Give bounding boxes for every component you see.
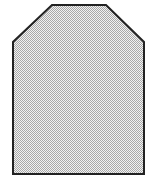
diagram-canvas (0, 0, 150, 181)
clipped-corner-shape (13, 5, 144, 174)
